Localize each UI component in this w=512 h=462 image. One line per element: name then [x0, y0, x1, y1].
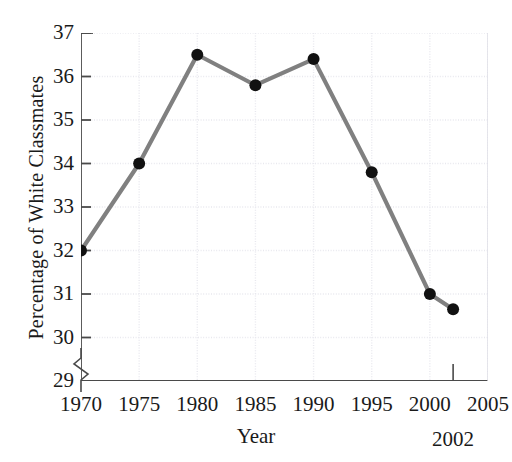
x-tick-label-1975: 1975	[107, 392, 171, 416]
y-tick-label-35: 35	[40, 109, 74, 130]
y-axis-break-symbol	[63, 348, 103, 392]
x-tick-label-1985: 1985	[223, 392, 287, 416]
y-tick-label-31: 31	[40, 283, 74, 304]
y-tick-label-37: 37	[40, 22, 74, 43]
x-tick-label-1990: 1990	[282, 392, 346, 416]
y-tick-label-30: 30	[40, 327, 74, 348]
y-tick-label-32: 32	[40, 240, 74, 261]
data-line	[81, 55, 453, 309]
gridlines	[81, 33, 488, 381]
x-tick-label-1995: 1995	[340, 392, 404, 416]
x-axis-tick-labels: 19701975198019851990199520002005	[0, 392, 512, 418]
y-tick-label-34: 34	[40, 153, 74, 174]
annotation-2002-label: 2002	[418, 427, 488, 452]
x-tick-label-1970: 1970	[49, 392, 113, 416]
line-chart-svg	[81, 33, 488, 381]
y-tick-label-36: 36	[40, 66, 74, 87]
x-tick-label-1980: 1980	[165, 392, 229, 416]
plot-area	[81, 33, 488, 381]
data-point-markers	[81, 49, 459, 315]
x-tick-label-2005: 2005	[456, 392, 512, 416]
y-tick-label-33: 33	[40, 196, 74, 217]
cut-off-header-text	[168, 0, 498, 9]
y-axis-tick-labels: 293031323334353637	[30, 33, 74, 381]
chart-canvas: Percentage of White Classmates 293031323…	[0, 0, 512, 462]
x-tick-label-2000: 2000	[398, 392, 462, 416]
